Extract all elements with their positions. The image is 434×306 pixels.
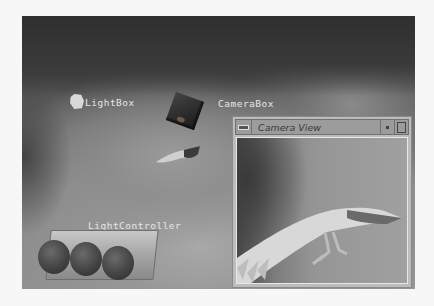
dark-sky-cloud [22,16,415,96]
light-ball-2[interactable] [70,242,102,276]
camera-view-window[interactable]: Camera View [232,116,412,288]
camera-view-render[interactable] [236,137,408,284]
bird-closeup [237,188,407,284]
camera-view-title-bar[interactable]: Camera View [235,119,409,135]
light-ball-1[interactable] [38,240,70,274]
lightbox-label: LightBox [85,97,135,108]
window-title: Camera View [252,122,380,133]
minimize-icon[interactable] [380,120,394,134]
sky-cloud-left [22,76,72,236]
light-ball-3[interactable] [102,246,134,280]
maximize-icon[interactable] [394,120,408,134]
camerabox-label: CameraBox [218,98,274,109]
light-controller-object[interactable] [42,228,160,286]
camerabox-object[interactable] [166,92,204,130]
lightbox-object[interactable] [70,94,84,109]
system-menu-icon[interactable] [236,120,252,134]
bird-model[interactable] [154,144,204,166]
